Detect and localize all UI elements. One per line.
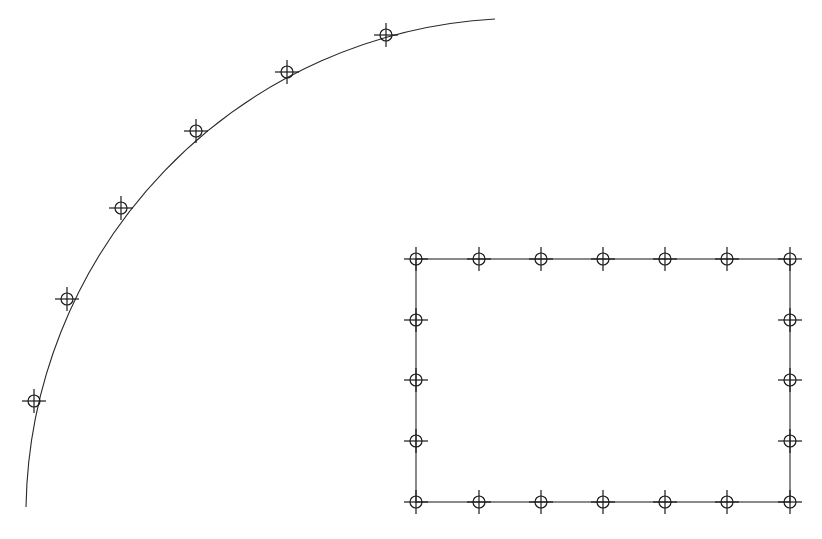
arc-markers-group — [22, 23, 398, 413]
rectangle-point-marker — [653, 247, 677, 271]
rectangle-point-marker — [653, 490, 677, 514]
arc-point-marker — [22, 389, 46, 413]
rectangle-point-marker — [404, 247, 428, 271]
rectangle-markers-group — [404, 247, 802, 514]
arc-point-marker — [55, 287, 79, 311]
rectangle-path — [416, 259, 790, 502]
arc-point-marker — [374, 23, 398, 47]
rectangle-point-marker — [778, 308, 802, 332]
quarter-arc-path — [26, 19, 495, 507]
rectangle-point-marker — [467, 247, 491, 271]
rectangle-point-marker — [404, 429, 428, 453]
rectangle-point-marker — [529, 490, 553, 514]
rectangle-point-marker — [404, 308, 428, 332]
rectangle-point-marker — [715, 247, 739, 271]
rectangle-point-marker — [404, 490, 428, 514]
rectangle-point-marker — [529, 247, 553, 271]
rectangle-point-marker — [467, 490, 491, 514]
rectangle-point-marker — [778, 368, 802, 392]
rectangle-point-marker — [778, 247, 802, 271]
rectangle-point-marker — [778, 490, 802, 514]
arc-point-marker — [184, 119, 208, 143]
rectangle-point-marker — [591, 490, 615, 514]
rectangle-point-marker — [404, 368, 428, 392]
arc-point-marker — [109, 196, 133, 220]
rectangle-point-marker — [591, 247, 615, 271]
rectangle-point-marker — [715, 490, 739, 514]
rectangle-point-marker — [778, 429, 802, 453]
drawing-canvas — [0, 0, 822, 539]
arc-point-marker — [275, 60, 299, 84]
